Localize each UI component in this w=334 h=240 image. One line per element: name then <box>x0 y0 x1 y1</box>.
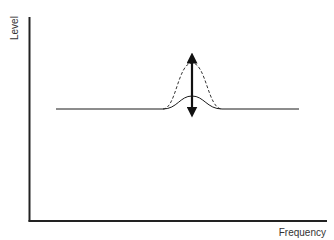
baseline-curve <box>56 96 299 109</box>
y-axis-label: Level <box>9 16 20 40</box>
eq-diagram: Level Frequency <box>0 0 334 240</box>
x-axis-label: Frequency <box>279 227 326 238</box>
